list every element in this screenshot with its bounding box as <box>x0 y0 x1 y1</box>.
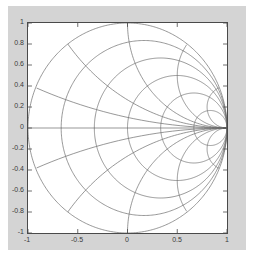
reactance-arc-x2 <box>177 45 227 128</box>
reactance-arc-x-2 <box>177 128 227 211</box>
y-tick-label: 0.6 <box>2 60 24 68</box>
x-tick-label: -0.5 <box>65 236 89 244</box>
y-tick-label: -1 <box>2 228 24 236</box>
x-tick-label: -1 <box>15 236 39 244</box>
x-tick-label: 1 <box>215 236 239 244</box>
x-tick-label: 0.5 <box>165 236 189 244</box>
x-tick-label: 0 <box>115 236 139 244</box>
y-tick-label: 0.4 <box>2 81 24 89</box>
y-tick-label: 0.8 <box>2 39 24 47</box>
y-tick-label: -0.8 <box>2 207 24 215</box>
smith-chart-plot <box>28 23 227 233</box>
reactance-arc-x0.2 <box>37 88 227 128</box>
smith-chart-axes <box>27 22 228 234</box>
y-tick-label: 0 <box>2 123 24 131</box>
reactance-arc-x-0.2 <box>37 128 227 168</box>
y-tick-label: 1 <box>2 18 24 26</box>
y-tick-label: 0.2 <box>2 102 24 110</box>
figure-background: 1 0.8 0.6 0.4 0.2 0 -0.2 -0.4 -0.6 -0.8 … <box>8 6 246 250</box>
y-tick-label: -0.6 <box>2 186 24 194</box>
y-tick-label: -0.2 <box>2 144 24 152</box>
y-tick-label: -0.4 <box>2 165 24 173</box>
